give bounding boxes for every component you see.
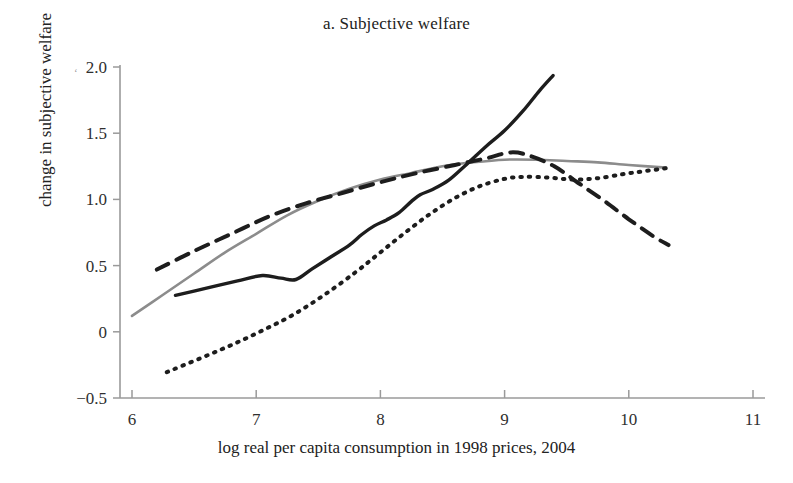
tick-labels: 2.01.51.00.50−0.567891011 (76, 58, 761, 429)
y-tick-label: 1.5 (86, 124, 107, 143)
series-line-black-dashed (157, 152, 669, 269)
series-lines (132, 76, 669, 373)
x-tick-label: 7 (252, 410, 261, 429)
x-tick-label: 9 (500, 410, 509, 429)
x-tick-label: 11 (745, 410, 761, 429)
y-tick-label: 0 (99, 323, 108, 342)
series-line-gray-solid (132, 159, 666, 315)
y-tick-label: −0.5 (76, 389, 107, 408)
y-tick-label: 2.0 (86, 58, 107, 77)
chart-canvas: 2.01.51.00.50−0.567891011 (0, 0, 793, 483)
x-tick-label: 6 (128, 410, 137, 429)
y-tick-label: 1.0 (86, 190, 107, 209)
y-tick-label: 0.5 (86, 257, 107, 276)
x-tick-label: 10 (620, 410, 637, 429)
figure-panel: a. Subjective welfare change in subjecti… (0, 0, 793, 483)
x-tick-label: 8 (376, 410, 385, 429)
axes (113, 65, 765, 398)
